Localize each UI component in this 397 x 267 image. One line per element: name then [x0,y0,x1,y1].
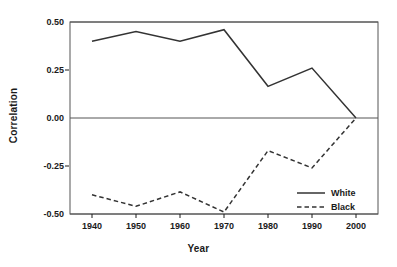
x-tick-label-1950: 1950 [126,221,146,231]
x-axis-title: Year [0,243,397,254]
x-tick-label-1960: 1960 [170,221,190,231]
x-tick-label-1980: 1980 [258,221,278,231]
legend-label: Black [331,202,355,212]
x-tick-label-1940: 1940 [82,221,102,231]
series-line-white [92,30,356,118]
legend-swatch-solid-line-icon [296,188,326,198]
x-tick-label-2000: 2000 [346,221,366,231]
legend-label: White [331,188,356,198]
x-tick-label-1970: 1970 [214,221,234,231]
chart-legend: WhiteBlack [296,186,356,214]
x-tick-label-1990: 1990 [302,221,322,231]
legend-swatch-dashed-line-icon [296,202,326,212]
legend-item-black: Black [296,200,356,214]
legend-item-white: White [296,186,356,200]
data-series-lines [92,30,356,212]
x-axis-tick-labels: 1940195019601970198019902000 [0,221,397,241]
correlation-by-race-line-chart: Correlation 0.500.250.00-0.25-0.50 19401… [0,0,397,267]
